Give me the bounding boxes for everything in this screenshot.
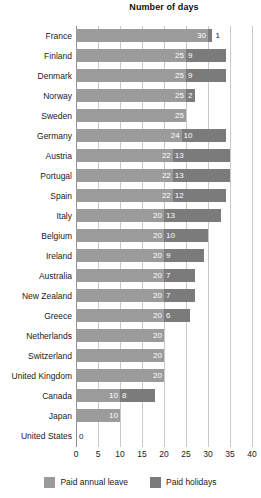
plot-area: 3012592592522524102213221322122013201020…: [76, 26, 252, 447]
y-axis-label: Austria: [0, 151, 72, 162]
bar-track: 2010: [76, 229, 252, 242]
bar-row: 259: [76, 46, 252, 66]
bar-value-label: 20: [153, 330, 162, 341]
legend-label: Paid annual leave: [60, 477, 128, 488]
bar-segment-paid-holidays: 2: [186, 89, 195, 102]
x-axis-tick-label: 10: [115, 449, 124, 460]
legend-item[interactable]: Paid annual leave: [44, 477, 128, 488]
bar-value-label: 20: [153, 290, 162, 301]
bar-value-label: 1: [215, 30, 219, 41]
bar-row: 209: [76, 247, 252, 267]
bar-row: 2213: [76, 146, 252, 166]
y-axis-label: Norway: [0, 91, 72, 102]
bar-segment-annual-leave: 22: [76, 189, 173, 202]
bar-row: 20: [76, 327, 252, 347]
y-axis-label: France: [0, 31, 72, 42]
bar-row: 0: [76, 427, 252, 447]
bar-value-label: 9: [188, 50, 192, 61]
y-axis-label: Australia: [0, 271, 72, 282]
bar-segment-annual-leave: 20: [76, 209, 164, 222]
bar-row: 25: [76, 106, 252, 126]
bar-value-label: 25: [175, 50, 184, 61]
y-axis-label: Japan: [0, 411, 72, 422]
x-axis-tick-label: 0: [74, 449, 79, 460]
bar-value-label: 20: [153, 250, 162, 261]
bar-value-label: 10: [166, 230, 175, 241]
bar-segment-annual-leave: 20: [76, 309, 164, 322]
x-axis-tick-label: 30: [203, 449, 212, 460]
bar-row: 20: [76, 347, 252, 367]
bar-value-label: 22: [162, 170, 171, 181]
x-axis-tick-label: 5: [96, 449, 101, 460]
bar-value-label: 20: [153, 210, 162, 221]
bar-row: 207: [76, 267, 252, 287]
bar-segment-paid-holidays: 9: [164, 249, 204, 262]
bar-row: 10: [76, 407, 252, 427]
bar-value-label: 10: [109, 390, 118, 401]
bar-value-label: 8: [122, 390, 126, 401]
y-axis-label: Sweden: [0, 111, 72, 122]
bar-segment-annual-leave: 25: [76, 109, 186, 122]
bar-segment-annual-leave: 22: [76, 149, 173, 162]
legend-item[interactable]: Paid holidays: [150, 477, 217, 488]
bar-row: 206: [76, 307, 252, 327]
y-axis-label: Canada: [0, 391, 72, 402]
bar-segment-annual-leave: 25: [76, 69, 186, 82]
bar-row: 301: [76, 26, 252, 46]
y-axis-category-labels: FranceFinlandDenmarkNorwaySwedenGermanyA…: [0, 26, 72, 447]
bar-value-label: 13: [175, 150, 184, 161]
bar-value-label: 10: [184, 130, 193, 141]
bar-segment-paid-holidays: 13: [173, 169, 230, 182]
bar-track: 259: [76, 69, 252, 82]
bar-value-label: 7: [166, 290, 170, 301]
bar-track: 2013: [76, 209, 252, 222]
bar-segment-paid-holidays: 6: [164, 309, 190, 322]
bar-segment-paid-holidays: [208, 29, 212, 42]
bar-segment-paid-holidays: 7: [164, 289, 195, 302]
bar-value-label: 13: [166, 210, 175, 221]
y-axis-label: Switzerland: [0, 351, 72, 362]
chart-title: Number of days: [76, 2, 252, 12]
y-axis-label: Portugal: [0, 171, 72, 182]
bar-row: 2410: [76, 126, 252, 146]
bar-segment-annual-leave: 10: [76, 389, 120, 402]
bar-track: 252: [76, 89, 252, 102]
bar-track: 259: [76, 49, 252, 62]
bar-value-label: 22: [162, 150, 171, 161]
bar-segment-paid-holidays: 13: [164, 209, 221, 222]
bar-segment-annual-leave: 25: [76, 49, 186, 62]
bar-row: 259: [76, 66, 252, 86]
bar-value-label: 9: [188, 70, 192, 81]
bar-segment-paid-holidays: 10: [182, 129, 226, 142]
x-axis-tick-label: 15: [137, 449, 146, 460]
bar-segment-paid-holidays: 8: [120, 389, 155, 402]
bar-track: 207: [76, 269, 252, 282]
y-axis-label: Finland: [0, 51, 72, 62]
bar-segment-paid-holidays: 9: [186, 69, 226, 82]
gridline-40: [252, 26, 253, 447]
bar-segment-paid-holidays: 9: [186, 49, 226, 62]
legend-swatch-icon: [150, 477, 161, 488]
bar-value-label: 25: [175, 110, 184, 121]
bar-track: 25: [76, 109, 252, 122]
bar-value-label: 22: [162, 190, 171, 201]
bar-segment-annual-leave: 20: [76, 369, 164, 382]
bar-value-label: 30: [197, 30, 206, 41]
bar-track: 10: [76, 409, 252, 422]
bar-segment-paid-holidays: 7: [164, 269, 195, 282]
bar-row: 2010: [76, 226, 252, 246]
bar-track: 2410: [76, 129, 252, 142]
bar-value-label: 7: [166, 270, 170, 281]
bar-row: 108: [76, 387, 252, 407]
bar-track: 207: [76, 289, 252, 302]
bar-value-label: 6: [166, 310, 170, 321]
bar-track: 20: [76, 329, 252, 342]
bar-value-label: 0: [79, 431, 83, 442]
bar-value-label: 2: [188, 90, 192, 101]
bar-track: 2212: [76, 189, 252, 202]
bar-value-label: 13: [175, 170, 184, 181]
bar-track: 108: [76, 389, 252, 402]
bar-segment-annual-leave: 20: [76, 229, 164, 242]
bar-row: 2212: [76, 186, 252, 206]
bar-value-label: 24: [171, 130, 180, 141]
